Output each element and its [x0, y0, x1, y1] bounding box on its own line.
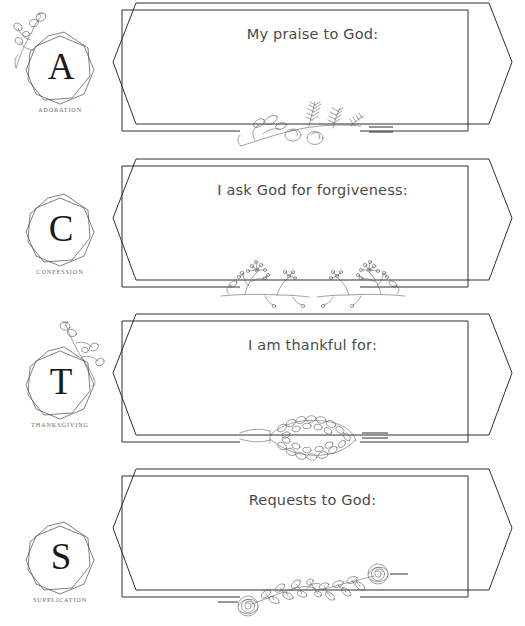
worksheet-page: A ADORATION My praise to God: [0, 0, 525, 626]
writing-frame[interactable]: I ask God for forgiveness: [110, 156, 515, 306]
acts-section: T THANKSGIVING I am thankful for: [0, 311, 525, 467]
badge-caption: SUPPLICATION [8, 596, 112, 603]
prompt-heading: My praise to God: [110, 26, 515, 42]
acts-badge: A ADORATION [8, 18, 112, 130]
badge-letter: C [8, 180, 112, 276]
acts-section: C CONFESSION I ask God for forgiveness: [0, 156, 525, 312]
prompt-heading: I ask God for forgiveness: [110, 182, 515, 198]
writing-frame[interactable]: I am thankful for: [110, 311, 515, 461]
floral-divider [238, 409, 388, 465]
eucalyptus-laurel-sprig-icon [238, 409, 388, 465]
badge-caption: THANKSGIVING [8, 421, 112, 428]
acts-badge: S SUPPLICATION [8, 508, 112, 620]
prompt-heading: Requests to God: [110, 492, 515, 508]
badge-caption: ADORATION [8, 106, 112, 113]
writing-frame[interactable]: My praise to God: [110, 0, 515, 150]
badge-letter: T [8, 333, 112, 429]
acts-section: A ADORATION My praise to God: [0, 0, 525, 156]
floral-divider [215, 252, 411, 310]
writing-frame[interactable]: Requests to God: [110, 466, 515, 616]
rose-vine-sprig-icon [218, 558, 408, 620]
acts-badge: C CONFESSION [8, 180, 112, 292]
floral-divider [218, 558, 408, 620]
acts-badge: T THANKSGIVING [8, 333, 112, 445]
badge-letter: A [8, 18, 112, 114]
acts-section: S SUPPLICATION Requests to God: [0, 466, 525, 622]
sweet-pea-wheat-sprig-icon [233, 96, 393, 154]
badge-caption: CONFESSION [8, 268, 112, 275]
prompt-heading: I am thankful for: [110, 337, 515, 353]
floral-divider [233, 96, 393, 154]
badge-letter: S [8, 508, 112, 604]
mirrored-babys-breath-sprig-icon [215, 252, 411, 310]
